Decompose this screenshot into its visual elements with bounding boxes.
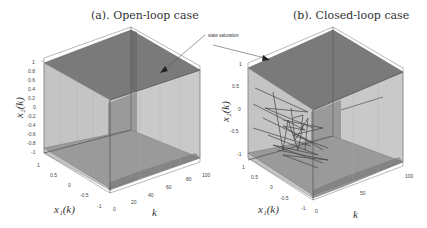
x1-tick: -1 [301, 205, 305, 211]
k-tick: 100 [405, 173, 413, 179]
x1-tick: 0 [270, 184, 273, 190]
z-tick: -0.2 [27, 113, 36, 119]
x1-axis-label: x₁(k) [258, 203, 279, 215]
k-tick: 80 [186, 176, 192, 182]
z-tick: -0.5 [230, 128, 239, 134]
k-axis-label: k [353, 208, 358, 220]
k-tick: 60 [166, 184, 172, 190]
k-tick: 40 [148, 192, 154, 198]
z-tick: 0.5 [232, 83, 239, 89]
z-tick: 0 [238, 106, 241, 112]
x1-tick: 0.5 [50, 172, 57, 178]
z-tick: -0.6 [27, 131, 36, 137]
k-tick: 50 [360, 190, 366, 196]
k-tick: 0 [113, 206, 116, 212]
closed-loop-3d-plot [213, 0, 426, 228]
x1-tick: 1 [242, 164, 245, 170]
z-tick: 0.6 [28, 77, 35, 83]
k-tick: 100 [202, 172, 210, 178]
z-tick: -1 [237, 151, 241, 157]
z-tick: -0.4 [27, 122, 36, 128]
x1-tick: 0.5 [251, 174, 258, 180]
z-tick: 0.2 [28, 95, 35, 101]
panel-open-loop: (a). Open-loop case 1 0.8 0.6 0.4 0.2 0 … [0, 0, 213, 228]
k-axis-label: k [152, 206, 157, 218]
chart-title-open-loop: (a). Open-loop case [91, 9, 199, 22]
x1-axis-label: x₁(k) [54, 203, 75, 215]
k-tick: 20 [131, 199, 137, 205]
x1-tick: -0.5 [280, 195, 289, 201]
z-tick: 0 [33, 104, 36, 110]
chart-title-closed-loop: (b). Closed-loop case [293, 9, 409, 22]
z-tick: 1 [32, 59, 35, 65]
z-tick: 0.8 [28, 68, 35, 74]
z-tick: 1 [239, 61, 242, 67]
z-tick: -0.8 [27, 140, 36, 146]
x1-tick: 0 [68, 182, 71, 188]
x1-tick: -1 [97, 203, 101, 209]
x1-tick: -0.5 [80, 192, 89, 198]
x1-tick: 1 [37, 162, 40, 168]
z-tick: 0.4 [28, 86, 35, 92]
z-axis-label: x₂(k) [13, 97, 25, 118]
z-tick: -1 [31, 149, 35, 155]
z-axis-label: x₂(k) [219, 101, 231, 122]
k-tick: 0 [315, 208, 318, 214]
panel-closed-loop: (b). Closed-loop case 1 0.5 0 -0.5 -1 1 … [213, 0, 426, 228]
